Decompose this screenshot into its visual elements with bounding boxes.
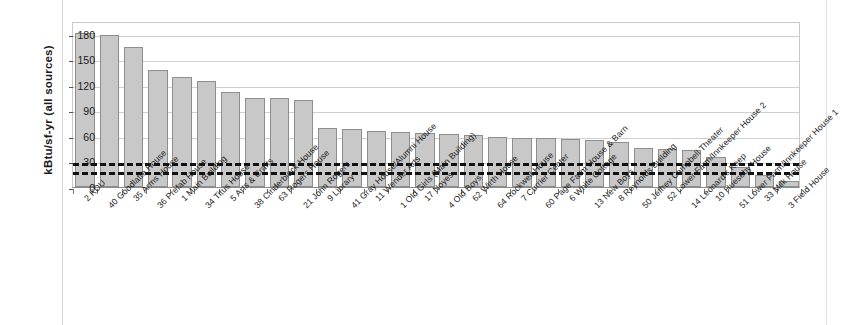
x-tick-mark [122,189,123,194]
y-tick-label-90: 90 [83,105,95,117]
x-tick-mark [388,189,389,194]
x-tick-mark [97,189,98,194]
x-tick-mark [219,189,220,194]
x-tick-mark [607,189,608,194]
x-tick-mark [655,189,656,194]
x-tick-mark [194,189,195,194]
x-tick-mark [801,189,802,194]
bar [755,175,774,187]
y-axis-title: kBtu/sf-yr (all sources) [42,10,54,210]
bar [391,132,410,187]
x-tick-mark [510,189,511,194]
y-tick-label-150: 150 [77,54,95,66]
plot-area [72,22,800,188]
x-tick-mark [170,189,171,194]
bar [658,149,677,187]
bar [464,135,483,187]
bar [124,47,143,187]
x-tick-mark [728,189,729,194]
x-tick-mark [340,189,341,194]
x-tick-mark [461,189,462,194]
x-tick-mark [267,189,268,194]
reference-line-lower-benchmark [73,172,799,175]
x-tick-mark [631,189,632,194]
bar [731,167,750,187]
bar [415,133,434,187]
x-tick-mark [486,189,487,194]
bar [439,134,458,187]
x-tick-mark [413,189,414,194]
bar [172,77,191,187]
reference-line-upper-benchmark [73,163,799,166]
bar [634,148,653,187]
bar [148,70,167,187]
y-tick-label-120: 120 [77,80,95,92]
x-tick-mark [291,189,292,194]
x-tick-mark [243,189,244,194]
bar [318,128,337,187]
x-tick-mark [364,189,365,194]
x-tick-mark [146,189,147,194]
x-tick-mark [680,189,681,194]
x-tick-mark [534,189,535,194]
y-tick-label-60: 60 [83,131,95,143]
x-tick-mark [752,189,753,194]
x-tick-mark [73,189,74,194]
x-tick-mark [777,189,778,194]
y-tick-label-180: 180 [77,29,95,41]
y-tick-label-0: 0 [89,182,95,194]
x-tick-mark [316,189,317,194]
page-border-right [826,0,827,325]
bar [682,150,701,187]
y-tick-label-30: 30 [83,156,95,168]
page-border-left [62,0,63,325]
x-tick-mark [583,189,584,194]
x-tick-mark [437,189,438,194]
bar [342,129,361,187]
bar [779,181,798,187]
x-tick-mark [704,189,705,194]
x-tick-mark [558,189,559,194]
bar [367,131,386,187]
